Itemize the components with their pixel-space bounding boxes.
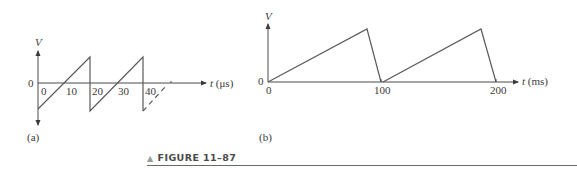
figure-caption: ▲FIGURE 11–87 [147, 152, 236, 163]
panel-a-tick-0: 0 [41, 86, 47, 97]
panel-a-y-label: V [35, 37, 42, 48]
panel-a-sawtooth-wave [38, 57, 143, 111]
panel-b-tick-200: 200 [490, 85, 507, 96]
panel-a-label: (a) [27, 132, 39, 143]
panel-b-x-label-unit: (ms) [525, 75, 548, 87]
panel-b-label: (b) [259, 132, 272, 143]
panel-b-tick-0: 0 [266, 85, 272, 96]
caption-underline [147, 165, 577, 166]
panel-a-tick-40: 40 [145, 86, 156, 97]
panel-a-x-label: t (μs) [210, 78, 233, 89]
panel-b-x-label: t (ms) [522, 76, 548, 87]
panel-a-tick-30: 30 [118, 86, 129, 97]
panel-b-triangle-wave-2 [383, 29, 496, 82]
panel-a-zero-label: 0 [28, 78, 34, 89]
triangle-marker-icon: ▲ [147, 154, 154, 163]
panel-b-tick-100: 100 [374, 85, 391, 96]
panel-b-triangle-wave [268, 29, 381, 82]
panel-b-graph [268, 24, 518, 82]
panel-a-tick-10: 10 [66, 86, 77, 97]
panel-a-tick-20: 20 [92, 86, 103, 97]
panel-b-y-label: V [265, 11, 272, 22]
figure-caption-text: FIGURE 11–87 [158, 152, 237, 163]
panel-a-x-label-unit: (μs) [213, 77, 233, 89]
panel-b-zero-label: 0 [258, 76, 264, 87]
